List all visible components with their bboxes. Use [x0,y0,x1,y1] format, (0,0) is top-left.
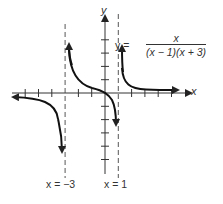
equation-fraction: x (x − 1)(x + 3) [146,32,206,58]
asymptote-label-left: x = −3 [46,178,75,190]
graph [0,0,223,204]
y-axis-label: y [101,4,107,16]
curve-right-branch [122,68,177,90]
equation-lhs: y = [115,39,129,51]
curve-middle-branch [69,50,116,124]
x-axis-label: x [191,85,197,97]
asymptote-label-right: x = 1 [104,178,127,190]
equation-numerator: x [146,32,206,44]
equation-denominator: (x − 1)(x + 3) [146,44,206,58]
curve-left-branch [14,97,58,119]
curve-left-branch-down [58,119,62,151]
